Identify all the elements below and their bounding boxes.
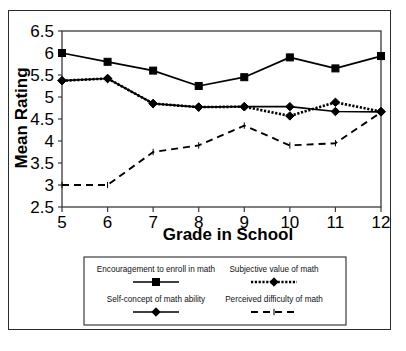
- series-point-marker: [331, 107, 339, 115]
- y-tick-label: 2.5: [30, 198, 54, 217]
- data-series-group: [58, 50, 385, 189]
- x-tick-label: 9: [240, 213, 249, 232]
- y-tick-label: 3.5: [30, 154, 54, 173]
- legend-box: Encouragement to enroll in mathSubjectiv…: [84, 257, 346, 325]
- x-tick-label: 12: [372, 213, 391, 232]
- series-point-marker: [286, 102, 294, 110]
- series-point-marker: [195, 103, 203, 111]
- x-tick-label: 10: [280, 213, 299, 232]
- y-tick-label: 6.5: [30, 22, 54, 41]
- series-point-marker: [59, 50, 66, 57]
- y-tick-label: 6: [45, 44, 54, 63]
- series-point-marker: [58, 77, 66, 85]
- series-point-marker: [378, 53, 385, 60]
- data-series: [59, 50, 385, 90]
- series-point-marker: [149, 99, 157, 107]
- y-axis-title: Mean Rating: [12, 67, 31, 168]
- plot-area-border: [62, 31, 381, 207]
- series-point-marker: [286, 112, 294, 120]
- x-tick-label: 5: [57, 213, 66, 232]
- series-line: [62, 79, 381, 112]
- data-series: [62, 109, 381, 188]
- x-axis-title: Grade in School: [163, 225, 293, 244]
- y-tick-label: 5: [45, 88, 54, 107]
- x-tick-label: 7: [148, 213, 157, 232]
- y-tick-label: 4.5: [30, 110, 54, 129]
- y-tick-label: 3: [45, 176, 54, 195]
- legend-label[interactable]: Encouragement to enroll in math: [97, 265, 216, 274]
- y-tick-label: 4: [45, 132, 54, 151]
- series-point-marker: [332, 65, 339, 72]
- plot-frame: [62, 31, 381, 207]
- y-tick-label: 5.5: [30, 66, 54, 85]
- series-point-marker: [240, 102, 248, 110]
- series-point-marker: [195, 83, 202, 90]
- y-tick-labels: 2.533.544.555.566.5: [30, 22, 54, 217]
- series-point-marker: [241, 74, 248, 81]
- x-tick-label: 11: [327, 213, 345, 232]
- legend-label[interactable]: Perceived difficulty of math: [225, 295, 323, 304]
- series-point-marker: [331, 98, 339, 106]
- figure-container: Mean Rating Grade in School 2.533.544.55…: [0, 0, 406, 351]
- legend-label[interactable]: Self-concept of math ability: [107, 295, 206, 304]
- legend-swatch-marker: [153, 279, 160, 286]
- x-tick-label: 8: [194, 213, 203, 232]
- data-series: [58, 74, 385, 116]
- x-tick-label: 6: [103, 213, 112, 232]
- series-point-marker: [104, 58, 111, 65]
- line-chart: Mean Rating Grade in School 2.533.544.55…: [0, 0, 406, 351]
- legend-label[interactable]: Subjective value of math: [229, 265, 319, 274]
- series-point-marker: [286, 54, 293, 61]
- series-line: [62, 112, 381, 185]
- series-point-marker: [150, 67, 157, 74]
